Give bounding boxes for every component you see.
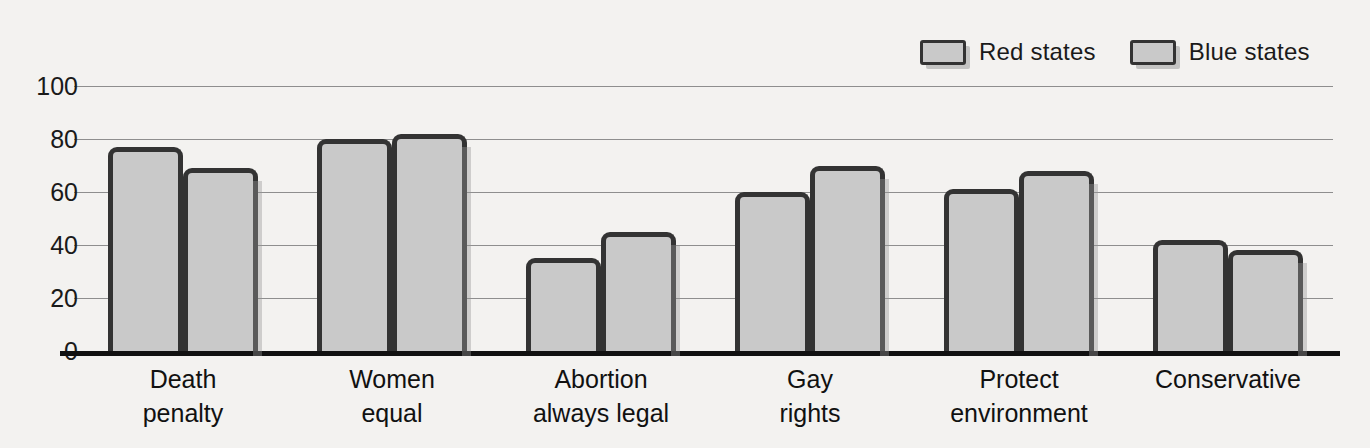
x-axis-label-5: Protect environment — [909, 362, 1129, 430]
gridline-40 — [88, 245, 1333, 246]
x-axis-label-2: Women equal — [282, 362, 502, 430]
x-axis-label-6: Conservative — [1118, 362, 1338, 396]
bar-5-blue-states — [1019, 171, 1094, 351]
bar-1-blue-states — [183, 168, 258, 351]
bar-3-blue-states — [601, 232, 676, 351]
x-axis-label-1: Death penalty — [73, 362, 293, 430]
bar-1-red-states — [108, 147, 183, 351]
bar-6-blue-states — [1228, 250, 1303, 351]
gridline-60 — [88, 192, 1333, 193]
bar-4-blue-states — [810, 166, 885, 352]
bar-chart-figure: Red states Blue states 020406080100 Deat… — [0, 0, 1370, 448]
x-axis-line — [60, 351, 1340, 356]
x-axis-label-3: Abortion always legal — [491, 362, 711, 430]
y-tick-label-20: 20 — [50, 284, 78, 313]
y-tick-label-100: 100 — [36, 72, 78, 101]
gridline-20 — [88, 298, 1333, 299]
bar-2-red-states — [317, 139, 392, 351]
gridline-80 — [88, 139, 1333, 140]
x-axis-label-4: Gay rights — [700, 362, 920, 430]
plot-area: 020406080100 Death penaltyWomen equalAbo… — [0, 0, 1370, 448]
y-tick-label-80: 80 — [50, 125, 78, 154]
bar-6-red-states — [1153, 240, 1228, 351]
bar-2-blue-states — [392, 134, 467, 351]
bar-4-red-states — [735, 192, 810, 351]
y-tick-label-40: 40 — [50, 231, 78, 260]
gridline-100 — [88, 86, 1333, 87]
y-tick-label-60: 60 — [50, 178, 78, 207]
bar-5-red-states — [944, 189, 1019, 351]
bar-3-red-states — [526, 258, 601, 351]
